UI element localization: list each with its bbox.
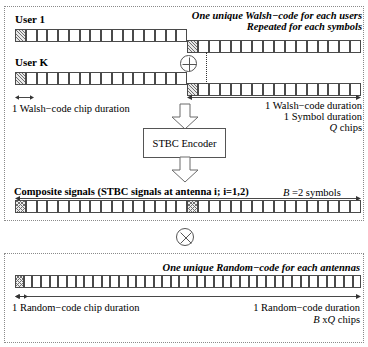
chip-cell (155, 72, 166, 85)
chip-cell (90, 29, 101, 42)
chip-cell (58, 200, 69, 213)
chip-cell (209, 200, 220, 213)
symbol-duration-label: 1 Symbol duration (284, 111, 362, 122)
chip-cell (283, 275, 292, 288)
chip-cell (220, 40, 231, 53)
user-k-walsh-chips-left (15, 72, 187, 85)
chip-cell (58, 72, 69, 85)
chip-cell (231, 200, 242, 213)
composite-chips-symbol-1 (15, 200, 187, 213)
chip-cell (318, 200, 329, 213)
walsh-code-duration-label: 1 Walsh−code duration (265, 100, 362, 111)
chip-cell (214, 275, 223, 288)
user-1-label: User 1 (15, 14, 45, 26)
chip-cell (90, 72, 101, 85)
chip-cell (144, 29, 155, 42)
chip-cell (101, 72, 112, 85)
chip-cell (93, 275, 102, 288)
chip-cell (144, 200, 155, 213)
user-k-label: User K (15, 57, 48, 69)
chip-cell (112, 72, 123, 85)
chip-cell (296, 40, 307, 53)
chip-cell (307, 40, 318, 53)
chip-cell (188, 275, 197, 288)
chip-cell (285, 40, 296, 53)
chip-cell (285, 200, 296, 213)
chip-cell (327, 275, 336, 288)
walsh-chip-duration-label: 1 Walsh−code chip duration (12, 103, 130, 114)
chip-cell (112, 200, 123, 213)
chip-cell (166, 29, 177, 42)
chip-cell (80, 29, 91, 42)
chip-cell (76, 275, 85, 288)
chip-cell (176, 72, 187, 85)
chip-cell (26, 200, 37, 213)
chip-cell (133, 200, 144, 213)
chip-cell (133, 72, 144, 85)
chip-cell (50, 275, 59, 288)
chip-cell (318, 40, 329, 53)
chip-cell (275, 275, 284, 288)
chip-cell (80, 200, 91, 213)
chip-cell-marked (15, 275, 24, 288)
chip-cell (240, 275, 249, 288)
xor-operator-icon (180, 55, 197, 72)
chip-cell (252, 40, 263, 53)
chip-cell (339, 200, 350, 213)
user-k-row-step-connector (186, 72, 188, 85)
user-1-row-step-connector (186, 29, 188, 42)
chip-cell (133, 29, 144, 42)
chip-cell (249, 275, 258, 288)
user-1-walsh-chips-left (15, 29, 187, 42)
chip-cell (335, 275, 344, 288)
chip-cell (37, 29, 48, 42)
chip-cell (241, 200, 252, 213)
chip-cell (296, 200, 307, 213)
chip-cell (328, 40, 339, 53)
chip-cell-marked (15, 200, 26, 213)
chip-cell (26, 29, 37, 42)
chip-cell (144, 72, 155, 85)
chip-cell (123, 200, 134, 213)
stbc-encoder-box: STBC Encoder (143, 128, 226, 158)
chip-cell (145, 275, 154, 288)
arrow-out-of-encoder-icon (170, 157, 200, 183)
q-chips-text: chips (337, 122, 362, 133)
chip-cell (339, 40, 350, 53)
chip-cell (328, 200, 339, 213)
chip-cell (37, 72, 48, 85)
chip-cell (47, 29, 58, 42)
user-1-walsh-chips-right (187, 40, 361, 53)
note-unique-random-code: One unique Random−code for each antennas (163, 262, 360, 273)
chip-cell (162, 275, 171, 288)
chip-cell (123, 72, 134, 85)
chip-cell (24, 275, 33, 288)
chip-cell (58, 275, 67, 288)
chip-cell (136, 275, 145, 288)
chip-cell (32, 275, 41, 288)
composite-chips-symbol-2 (187, 200, 361, 213)
chip-cell (84, 275, 93, 288)
bq-chips-text: chips (335, 314, 360, 325)
chip-cell (198, 200, 209, 213)
chip-cell (309, 275, 318, 288)
chip-cell (223, 275, 232, 288)
note-unique-walsh-code: One unique Walsh−code for each users (192, 10, 362, 21)
chip-cell (102, 275, 111, 288)
chip-cell (292, 275, 301, 288)
chip-cell (179, 275, 188, 288)
chip-cell (26, 72, 37, 85)
note-repeated-each-symbol: Repeated for each symbols (247, 21, 362, 32)
chip-cell (231, 275, 240, 288)
chip-cell (119, 275, 128, 288)
walsh-chip-duration-measure (14, 93, 36, 102)
chip-cell (220, 200, 231, 213)
chip-cell-marked (15, 29, 26, 42)
chip-cell (67, 275, 76, 288)
multiply-operator-icon (176, 228, 194, 246)
arrow-into-encoder-icon (170, 104, 200, 130)
chip-cell (252, 200, 263, 213)
chip-cell (155, 29, 166, 42)
chip-cell (90, 200, 101, 213)
random-code-duration-measure (14, 292, 362, 301)
